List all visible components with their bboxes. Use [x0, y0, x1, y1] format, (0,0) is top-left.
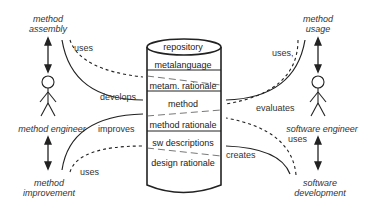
label-line: development: [282, 188, 358, 198]
relation-develops: develops: [100, 92, 136, 102]
activity-software-development: software development: [282, 178, 358, 198]
repository-layer-metam-rationale: metam. rationale: [145, 81, 221, 91]
activity-method-usage: method usage: [288, 14, 348, 34]
activity-method-improvement: method improvement: [14, 178, 84, 198]
relation-improves: improves: [98, 124, 135, 134]
actor-method-engineer: method engineer: [14, 124, 90, 134]
relation-creates: creates: [226, 150, 256, 160]
label-line: improvement: [14, 188, 84, 198]
label-line: assembly: [18, 24, 78, 34]
repository-layer-sw-descriptions: sw descriptions: [145, 138, 221, 148]
relation-improvement-uses: uses: [80, 167, 99, 177]
label-line: method: [288, 14, 348, 24]
relation-assembly-uses: uses: [74, 43, 93, 53]
repository-title: repository: [145, 42, 221, 52]
label-line: usage: [288, 24, 348, 34]
label-line: method: [18, 14, 78, 24]
label-line: method: [14, 178, 84, 188]
repository-layer-method: method: [145, 99, 221, 109]
relation-usage-uses: uses,: [272, 48, 294, 58]
label-line: software: [282, 178, 358, 188]
activity-method-assembly: method assembly: [18, 14, 78, 34]
relation-evaluates: evaluates: [256, 103, 295, 113]
method-engineer-figure: [40, 76, 56, 116]
repository-layer-method-rationale: method rationale: [145, 120, 221, 130]
software-engineer-figure: [310, 76, 326, 116]
relation-development-uses: uses: [288, 134, 307, 144]
repository-layer-metalanguage: metalanguage: [145, 60, 221, 70]
actor-software-engineer: software engineer: [280, 124, 364, 134]
repository-layer-design-rationale: design rationale: [145, 158, 221, 168]
